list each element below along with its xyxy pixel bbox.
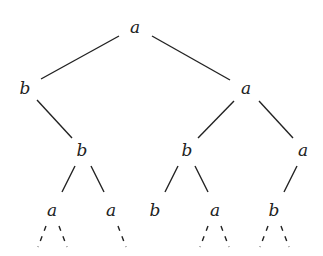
node-l3-1: a	[47, 200, 57, 220]
edge-a-b-down	[284, 166, 297, 192]
edge-a-b	[198, 101, 234, 138]
node-root: a	[130, 17, 140, 37]
edge-b-a-left	[62, 166, 75, 192]
edge-root-right	[152, 36, 230, 80]
dashed-edge	[221, 226, 229, 247]
node-l1-left: b	[20, 78, 31, 98]
edge-a-a	[259, 101, 293, 138]
dashed-edge	[260, 226, 268, 247]
node-l3-2: a	[106, 200, 116, 220]
edge-b-b-left	[165, 166, 178, 192]
dashed-edge	[118, 226, 126, 247]
edge-b-a-right	[91, 166, 104, 192]
edge-root-left	[41, 36, 119, 79]
node-l2-3: a	[298, 140, 308, 160]
tree-diagram: a b a b b a a a b a b	[0, 0, 323, 256]
dashed-edge	[38, 226, 46, 247]
dashed-continuations	[38, 226, 289, 247]
dashed-edge	[200, 226, 208, 247]
node-l2-1: b	[77, 140, 88, 160]
node-l3-5: b	[269, 200, 280, 220]
node-l1-right: a	[241, 78, 251, 98]
dashed-edge	[59, 226, 67, 247]
edges	[37, 36, 297, 192]
node-l3-4: a	[210, 200, 220, 220]
node-l3-3: b	[150, 200, 161, 220]
node-l2-2: b	[182, 140, 193, 160]
edge-b-b	[37, 100, 72, 138]
edge-b-a-right2	[195, 166, 208, 192]
dashed-edge	[281, 226, 289, 247]
